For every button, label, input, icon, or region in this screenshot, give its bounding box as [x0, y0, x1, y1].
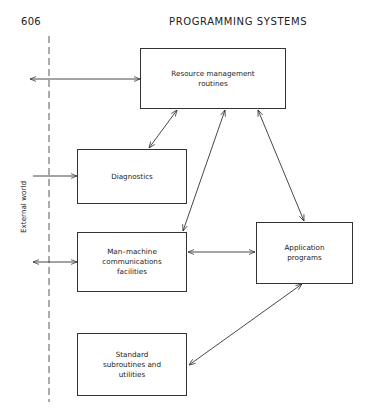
- node-label-line: facilities: [102, 267, 161, 277]
- node-label-line: Diagnostics: [111, 172, 153, 182]
- edge-resource-man-machine: [183, 110, 225, 231]
- node-label-line: Man–machine: [102, 247, 161, 257]
- node-diagnostics: Diagnostics: [77, 149, 187, 204]
- node-label-line: programs: [284, 253, 324, 263]
- node-label-line: routines: [171, 79, 254, 89]
- edge-application-standard: [189, 284, 302, 365]
- external-world-label: External world: [19, 181, 28, 233]
- node-label-line: Resource management: [171, 69, 254, 79]
- node-label-line: Standard: [103, 350, 161, 360]
- edge-resource-application: [258, 110, 304, 221]
- node-label-line: communications: [102, 257, 161, 267]
- node-man-machine: Man–machine communications facilities: [77, 232, 187, 292]
- node-resource-management: Resource management routines: [140, 48, 286, 109]
- node-standard-subroutines: Standard subroutines and utilities: [77, 333, 187, 396]
- node-label-line: subroutines and: [103, 360, 161, 370]
- edge-resource-diagnostics: [149, 110, 177, 148]
- node-label-line: Application: [284, 243, 324, 253]
- node-application-programs: Application programs: [256, 222, 353, 284]
- node-label-line: utilities: [103, 370, 161, 380]
